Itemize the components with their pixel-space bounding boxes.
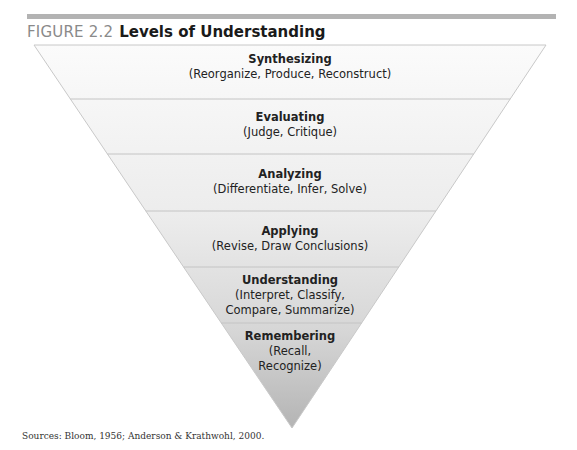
level-verbs-line2: Recognize) xyxy=(210,359,370,374)
level-verbs-line2: Compare, Summarize) xyxy=(190,303,390,318)
level-name: Synthesizing xyxy=(140,52,440,67)
level-verbs-line1: (Interpret, Classify, xyxy=(190,288,390,303)
level-synthesizing: Synthesizing (Reorganize, Produce, Recon… xyxy=(140,52,440,82)
level-evaluating: Evaluating (Judge, Critique) xyxy=(140,110,440,140)
level-name: Analyzing xyxy=(140,167,440,182)
level-verbs-line1: (Recall, xyxy=(210,344,370,359)
level-verbs: (Judge, Critique) xyxy=(140,125,440,140)
level-remembering: Remembering (Recall, Recognize) xyxy=(210,329,370,374)
level-understanding: Understanding (Interpret, Classify, Comp… xyxy=(190,273,390,318)
level-verbs: (Revise, Draw Conclusions) xyxy=(140,239,440,254)
level-applying: Applying (Revise, Draw Conclusions) xyxy=(140,224,440,254)
level-analyzing: Analyzing (Differentiate, Infer, Solve) xyxy=(140,167,440,197)
level-name: Evaluating xyxy=(140,110,440,125)
level-name: Applying xyxy=(140,224,440,239)
level-verbs: (Reorganize, Produce, Reconstruct) xyxy=(140,67,440,82)
level-name: Understanding xyxy=(190,273,390,288)
level-name: Remembering xyxy=(210,329,370,344)
level-verbs: (Differentiate, Infer, Solve) xyxy=(140,182,440,197)
source-citation: Sources: Bloom, 1956; Anderson & Krathwo… xyxy=(22,431,264,441)
